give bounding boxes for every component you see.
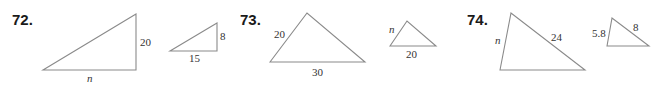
problem-73-small-triangle [390, 21, 436, 46]
problem-74-small-triangle [607, 18, 649, 46]
problem-72-large-side-right: 20 [140, 36, 152, 48]
problem-72-small-triangle [170, 23, 217, 51]
problem-73-small-side-left: n [389, 23, 395, 35]
problem-73-large-side-left: 20 [274, 28, 286, 40]
problem-72-small-side-right: 8 [220, 30, 226, 42]
problem-72-large-triangle [43, 14, 136, 70]
problem-74-large-triangle [500, 13, 585, 70]
problem-74-large-side-left: n [495, 34, 501, 46]
problem-72-large-side-bottom: n [87, 72, 93, 84]
problem-72-small-side-bottom: 15 [189, 52, 201, 64]
similar-triangles-diagram: 20 n 8 15 20 30 n 20 n 24 5.8 8 [0, 0, 665, 90]
problem-74: n 24 5.8 8 [495, 13, 649, 70]
problem-74-small-side-right: 8 [633, 21, 639, 33]
problem-74-small-side-left: 5.8 [592, 27, 606, 39]
problem-72: 20 n 8 15 [43, 14, 226, 84]
problem-73: 20 30 n 20 [270, 13, 436, 78]
problem-73-large-side-bottom: 30 [312, 66, 324, 78]
problem-73-small-side-bottom: 20 [406, 48, 418, 60]
problem-74-large-side-right: 24 [551, 31, 563, 43]
